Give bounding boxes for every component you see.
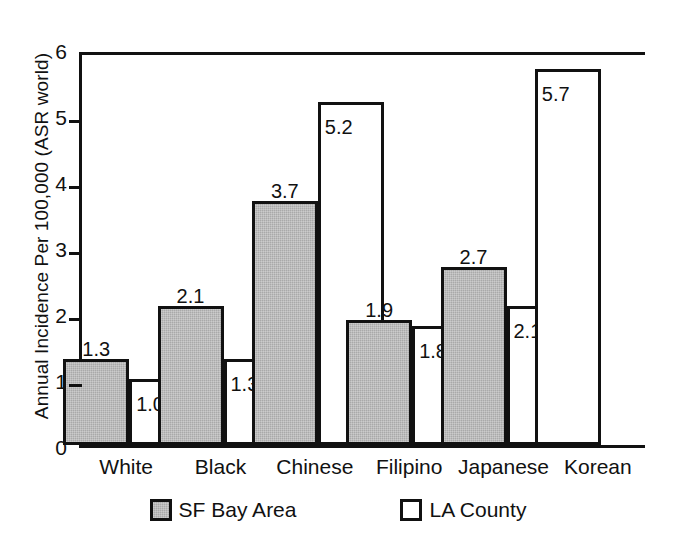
bar-value-label: 2.7	[435, 247, 513, 267]
bar-value-label: 2.1	[152, 286, 230, 306]
bar-value-label: 5.2	[325, 117, 353, 137]
y-axis-tick	[69, 252, 82, 255]
legend-label: LA County	[429, 498, 526, 522]
legend-entry-la-county[interactable]: LA County	[400, 498, 526, 522]
y-axis-tick-label: 1	[21, 371, 67, 392]
bar-filipino-sf-bay-area	[346, 320, 412, 445]
y-axis-tick-label: 4	[21, 173, 67, 194]
y-axis-tick	[69, 384, 82, 387]
y-axis-tick-label: 0	[21, 437, 67, 458]
plot-inner: 1.31.02.11.33.75.21.91.82.72.15.7	[82, 55, 645, 445]
chart-legend: SF Bay AreaLA County	[0, 498, 676, 522]
bar-white-sf-bay-area	[63, 359, 129, 445]
y-axis-tick	[69, 318, 82, 321]
bar-chart-figure: Annual Incidence Per 100,000 (ASR world)…	[0, 0, 676, 553]
y-axis-tick	[69, 186, 82, 189]
plot-area: 1.31.02.11.33.75.21.91.82.72.15.7	[79, 52, 645, 448]
legend-entry-sf-bay-area[interactable]: SF Bay Area	[150, 498, 297, 522]
legend-label: SF Bay Area	[179, 498, 297, 522]
x-axis-label-korean: Korean	[535, 455, 661, 478]
bar-korean-la-county	[535, 69, 601, 445]
y-axis-tick	[69, 120, 82, 123]
bar-japanese-sf-bay-area	[441, 267, 507, 445]
y-axis-tick-label: 6	[21, 41, 67, 62]
y-axis-tick-label: 5	[21, 107, 67, 128]
bar-value-label: 1.3	[57, 339, 135, 359]
y-axis-tick-label: 2	[21, 305, 67, 326]
bar-value-label: 3.7	[246, 181, 324, 201]
bar-value-label: 5.7	[542, 84, 570, 104]
legend-swatch-icon	[150, 499, 172, 521]
bar-chinese-sf-bay-area	[252, 201, 318, 445]
bar-black-sf-bay-area	[158, 306, 224, 445]
y-axis-tick-label: 3	[21, 239, 67, 260]
legend-swatch-icon	[400, 499, 422, 521]
bar-value-label: 1.9	[340, 300, 418, 320]
